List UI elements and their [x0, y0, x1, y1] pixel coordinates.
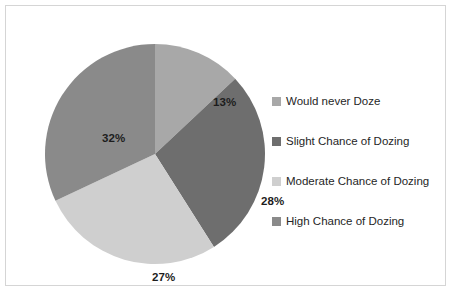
legend-item-label: Would never Doze	[286, 94, 380, 108]
pie-slice-group	[45, 44, 265, 264]
chart-canvas: 13% 28% 27% 32% Would never Doze Slight …	[0, 0, 454, 295]
pie-chart-plot-area: 13% 28% 27% 32%	[44, 43, 266, 265]
legend-item-label: High Chance of Dozing	[286, 214, 404, 228]
chart-legend: Would never Doze Slight Chance of Dozing…	[272, 94, 444, 228]
legend-item-label: Slight Chance of Dozing	[286, 134, 409, 148]
legend-item-label: Moderate Chance of Dozing	[286, 174, 429, 188]
legend-swatch-icon	[272, 97, 281, 106]
legend-swatch-icon	[272, 177, 281, 186]
legend-item-moderate-chance-of-dozing[interactable]: Moderate Chance of Dozing	[272, 174, 444, 188]
legend-swatch-icon	[272, 137, 281, 146]
pie-slice-label-would-never-doze: 13%	[213, 96, 236, 108]
pie-chart-svg	[44, 43, 266, 265]
pie-slice-label-high-chance: 32%	[102, 132, 125, 144]
legend-item-would-never-doze[interactable]: Would never Doze	[272, 94, 444, 108]
pie-slice-label-moderate-chance: 27%	[152, 271, 175, 283]
legend-item-slight-chance-of-dozing[interactable]: Slight Chance of Dozing	[272, 134, 444, 148]
chart-frame: 13% 28% 27% 32% Would never Doze Slight …	[5, 5, 446, 286]
legend-item-high-chance-of-dozing[interactable]: High Chance of Dozing	[272, 214, 444, 228]
legend-swatch-icon	[272, 217, 281, 226]
